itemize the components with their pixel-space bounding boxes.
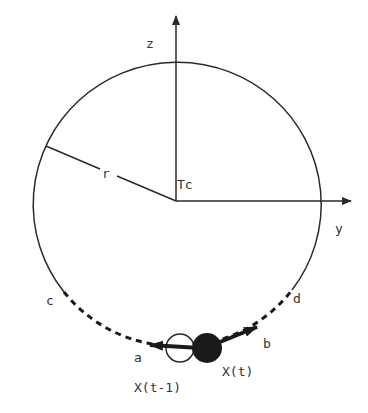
point-b-label: b — [263, 336, 271, 351]
point-d-label: d — [293, 291, 301, 306]
velocity-arrow-current — [220, 327, 257, 342]
orbit-diagram: z y Tc r c d a b X(t) X(t-1) — [0, 0, 368, 413]
radius-line — [117, 176, 176, 201]
center-label: Tc — [177, 177, 193, 192]
radius-label: r — [102, 166, 110, 181]
radius-line — [46, 146, 100, 169]
point-a-label: a — [134, 350, 142, 365]
current-position-label: X(t) — [222, 364, 253, 379]
z-axis-label: z — [146, 36, 154, 51]
point-c-label: c — [46, 293, 54, 308]
current-position-marker — [192, 333, 222, 363]
previous-position-label: X(t-1) — [134, 380, 181, 395]
y-axis-label: y — [335, 221, 343, 236]
